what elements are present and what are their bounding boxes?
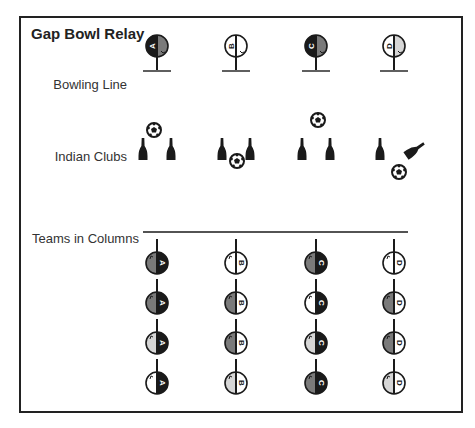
team-c-player-1: C bbox=[305, 239, 327, 274]
team-letter: C bbox=[317, 340, 326, 346]
team-letter: B bbox=[237, 260, 246, 266]
team-letter: A bbox=[158, 380, 167, 386]
team-letter: B bbox=[227, 43, 236, 49]
team-letter: A bbox=[158, 340, 167, 346]
team-letter: D bbox=[385, 43, 394, 49]
team-c-player-3: C bbox=[305, 319, 327, 354]
team-letter: D bbox=[395, 300, 404, 306]
team-d-player-2: D bbox=[383, 279, 405, 314]
indian-club-right bbox=[246, 138, 255, 160]
team-a-player-3: A bbox=[146, 319, 168, 354]
team-c-player-4: C bbox=[305, 359, 327, 394]
team-b-player-3: B bbox=[225, 319, 247, 354]
team-b-player-2: B bbox=[225, 279, 247, 314]
bowler-b: B bbox=[222, 35, 250, 71]
bowler-c: C bbox=[302, 35, 330, 71]
team-d-player-1: D bbox=[383, 239, 405, 274]
team-d-player-3: D bbox=[383, 319, 405, 354]
soccer-ball-icon bbox=[230, 154, 244, 168]
team-b-player-4: B bbox=[225, 359, 247, 394]
indian-club-left bbox=[376, 138, 385, 160]
indian-club-left bbox=[218, 138, 227, 160]
indian-club-right bbox=[167, 138, 176, 160]
team-letter: B bbox=[237, 380, 246, 386]
indian-club-right bbox=[326, 138, 335, 160]
team-a-player-2: A bbox=[146, 279, 168, 314]
team-d-player-4: D bbox=[383, 359, 405, 394]
bowler-d: D bbox=[380, 35, 408, 71]
soccer-ball-icon bbox=[147, 123, 161, 137]
team-letter: C bbox=[317, 260, 326, 266]
relay-diagram: ABCDAAAABBBBCCCCDDDD bbox=[0, 0, 475, 428]
indian-club-left bbox=[298, 138, 307, 160]
team-letter: D bbox=[395, 340, 404, 346]
team-letter: A bbox=[148, 43, 157, 49]
team-a-player-1: A bbox=[146, 239, 168, 274]
team-letter: D bbox=[395, 380, 404, 386]
team-c-player-2: C bbox=[305, 279, 327, 314]
indian-club-knocked bbox=[403, 140, 426, 160]
team-letter: B bbox=[237, 300, 246, 306]
bowler-a: A bbox=[143, 35, 171, 71]
team-a-player-4: A bbox=[146, 359, 168, 394]
team-letter: C bbox=[307, 43, 316, 49]
team-b-player-1: B bbox=[225, 239, 247, 274]
soccer-ball-icon bbox=[392, 165, 406, 179]
team-letter: C bbox=[317, 300, 326, 306]
team-letter: B bbox=[237, 340, 246, 346]
team-letter: D bbox=[395, 260, 404, 266]
team-letter: A bbox=[158, 300, 167, 306]
soccer-ball-icon bbox=[311, 113, 325, 127]
team-letter: A bbox=[158, 260, 167, 266]
indian-club-left bbox=[139, 138, 148, 160]
team-letter: C bbox=[317, 380, 326, 386]
